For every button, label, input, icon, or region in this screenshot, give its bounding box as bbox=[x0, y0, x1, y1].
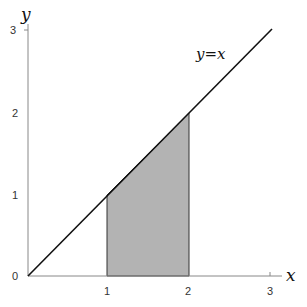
y-tick-label-2: 2 bbox=[12, 107, 18, 119]
shaded-area bbox=[107, 113, 189, 276]
plot-canvas: 0 1 2 3 1 2 3 x y y=x bbox=[0, 0, 307, 307]
y-tick-label-1: 1 bbox=[12, 189, 18, 201]
y-tick-label-3: 3 bbox=[10, 24, 16, 36]
x-tick-label-2: 2 bbox=[185, 285, 191, 297]
x-axis-label: x bbox=[286, 265, 296, 285]
y-axis-label: y bbox=[20, 4, 31, 24]
x-tick-label-1: 1 bbox=[104, 285, 110, 297]
origin-label: 0 bbox=[12, 270, 18, 282]
curve-label: y=x bbox=[195, 45, 226, 63]
x-tick-label-3: 3 bbox=[267, 285, 273, 297]
